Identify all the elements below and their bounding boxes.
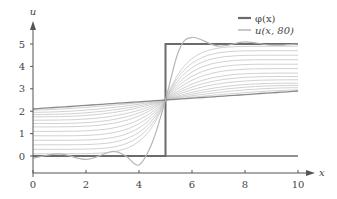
legend: φ(x) u(x, 80)	[238, 13, 294, 36]
x-tick-label: 0	[30, 179, 36, 190]
x-tick-label: 10	[292, 179, 305, 190]
y-tick-label: 5	[19, 39, 25, 50]
y-tick-label: 0	[19, 151, 25, 162]
legend-label-fourier: u(x, 80)	[255, 25, 294, 36]
y-axis-label: u	[30, 6, 36, 17]
x-tick-label: 8	[242, 179, 248, 190]
x-tick-label: 4	[136, 179, 142, 190]
x-axis-label: x	[319, 167, 325, 178]
y-tick-label: 3	[19, 83, 25, 94]
y-tick-label: 2	[19, 106, 25, 117]
y-axis-arrow-icon	[30, 21, 36, 30]
legend-label-phi: φ(x)	[255, 13, 276, 24]
y-tick-label: 4	[19, 61, 25, 72]
chart: 0246810012345xu φ(x) u(x, 80)	[0, 0, 337, 199]
x-tick-label: 6	[189, 179, 195, 190]
x-axis-arrow-icon	[306, 170, 315, 176]
x-tick-label: 2	[83, 179, 89, 190]
y-tick-label: 1	[19, 128, 25, 139]
